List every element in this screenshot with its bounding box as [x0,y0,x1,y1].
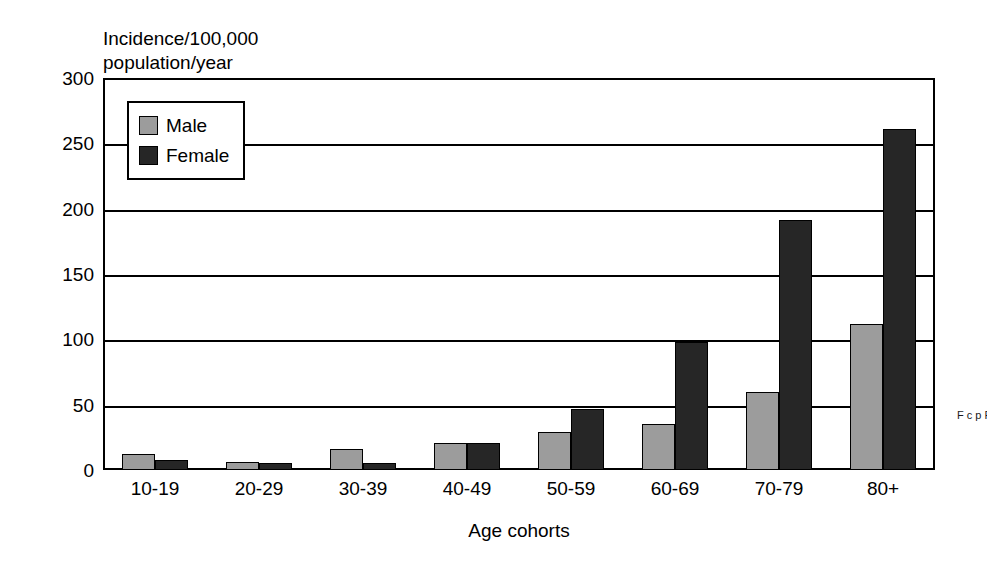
bar-group-30-39 [311,78,415,470]
x-tick-label-70-79: 70-79 [727,478,831,500]
y-axis-title: Incidence/100,000population/year [103,27,258,75]
x-tick-label-30-39: 30-39 [311,478,415,500]
legend-label-male: Male [166,116,207,135]
bar-group-50-59 [519,78,623,470]
x-tick-label-20-29: 20-29 [207,478,311,500]
y-tick-label-0: 0 [16,461,94,480]
bar-male-30-39 [330,449,363,470]
x-tick-label-50-59: 50-59 [519,478,623,500]
bar-group-40-49 [415,78,519,470]
legend-item-male: Male [139,110,229,140]
bar-male-40-49 [434,443,467,470]
x-tick-label-80+: 80+ [831,478,935,500]
clipped-margin-text: F c p F i [957,408,987,423]
bar-female-30-39 [363,463,396,470]
y-axis-title-line-0: Incidence/100,000 [103,27,258,51]
bar-female-60-69 [675,342,708,470]
bar-male-50-59 [538,432,571,470]
bar-female-40-49 [467,443,500,470]
y-tick-label-150: 150 [16,265,94,284]
bar-female-20-29 [259,463,292,470]
bar-female-10-19 [155,460,188,470]
x-tick-label-60-69: 60-69 [623,478,727,500]
x-tick-label-10-19: 10-19 [103,478,207,500]
bar-male-70-79 [746,392,779,470]
legend-swatch-female-icon [139,146,158,165]
legend-item-female: Female [139,140,229,170]
y-axis-title-line-1: population/year [103,51,258,75]
legend-label-female: Female [166,146,229,165]
bar-group-70-79 [727,78,831,470]
y-tick-label-100: 100 [16,330,94,349]
bar-female-50-59 [571,409,604,470]
bar-male-60-69 [642,424,675,470]
bar-male-20-29 [226,462,259,470]
bar-group-60-69 [623,78,727,470]
chart-legend: Male Female [127,101,245,180]
legend-swatch-male-icon [139,116,158,135]
x-axis-tick-labels: 10-1920-2930-3940-4950-5960-6970-7980+ [103,478,935,508]
y-axis-tick-labels: 050100150200250300 [8,78,94,470]
x-axis-title: Age cohorts [103,520,935,542]
y-tick-label-300: 300 [16,69,94,88]
bar-female-80+ [883,129,916,470]
bar-female-70-79 [779,220,812,470]
bar-male-10-19 [122,454,155,470]
y-tick-label-50: 50 [16,396,94,415]
bar-group-80+ [831,78,935,470]
bar-male-80+ [850,324,883,470]
y-tick-label-200: 200 [16,200,94,219]
y-tick-label-250: 250 [16,134,94,153]
x-tick-label-40-49: 40-49 [415,478,519,500]
